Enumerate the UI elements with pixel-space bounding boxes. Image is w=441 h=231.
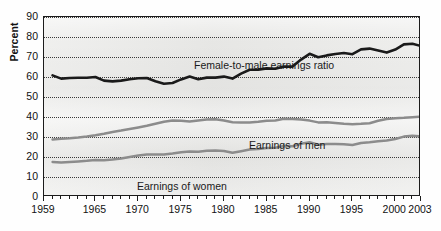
x-tick-1973 bbox=[163, 196, 164, 199]
y-tick-label-80: 80 bbox=[16, 31, 38, 41]
x-tick-label-1995: 1995 bbox=[329, 203, 373, 215]
x-axis: 1959196519701975198019851990199520002003 bbox=[43, 196, 420, 231]
annotation-earnings-of-women: Earnings of women bbox=[137, 180, 227, 192]
x-tick-1996 bbox=[360, 196, 361, 199]
x-tick-1997 bbox=[369, 196, 370, 199]
y-tick-label-60: 60 bbox=[16, 71, 38, 81]
x-tick-1960 bbox=[52, 196, 53, 199]
x-tick-1961 bbox=[60, 196, 61, 199]
line-earnings-of-women bbox=[53, 136, 420, 163]
x-tick-label-1965: 1965 bbox=[72, 203, 116, 215]
x-tick-1989 bbox=[300, 196, 301, 199]
x-tick-1991 bbox=[317, 196, 318, 199]
x-tick-label-2003: 2003 bbox=[398, 203, 441, 215]
x-tick-label-1959: 1959 bbox=[21, 203, 65, 215]
x-tick-1972 bbox=[154, 196, 155, 199]
x-tick-1988 bbox=[291, 196, 292, 199]
x-tick-1995 bbox=[351, 196, 352, 201]
x-tick-1963 bbox=[77, 196, 78, 199]
x-tick-1969 bbox=[129, 196, 130, 199]
x-tick-1980 bbox=[223, 196, 224, 201]
x-tick-2000 bbox=[394, 196, 395, 201]
x-tick-1993 bbox=[334, 196, 335, 199]
y-tick-label-10: 10 bbox=[16, 171, 38, 181]
x-tick-1985 bbox=[266, 196, 267, 201]
x-tick-1970 bbox=[137, 196, 138, 201]
y-tick-label-70: 70 bbox=[16, 51, 38, 61]
x-tick-1976 bbox=[189, 196, 190, 199]
x-tick-1971 bbox=[146, 196, 147, 199]
y-tick-label-30: 30 bbox=[16, 131, 38, 141]
annotation-female-to-male-ratio: Female-to-male earnings ratio bbox=[194, 59, 334, 71]
x-tick-1959 bbox=[43, 196, 44, 201]
x-tick-1978 bbox=[206, 196, 207, 199]
x-tick-2001 bbox=[403, 196, 404, 199]
x-tick-1981 bbox=[232, 196, 233, 199]
x-tick-1998 bbox=[377, 196, 378, 199]
y-tick-label-20: 20 bbox=[16, 151, 38, 161]
x-tick-2002 bbox=[411, 196, 412, 199]
y-tick-label-90: 90 bbox=[16, 11, 38, 21]
x-tick-1977 bbox=[197, 196, 198, 199]
x-tick-1990 bbox=[309, 196, 310, 201]
x-tick-1965 bbox=[94, 196, 95, 201]
x-tick-1984 bbox=[257, 196, 258, 199]
plot-area: Female-to-male earnings ratio Earnings o… bbox=[43, 16, 420, 196]
x-tick-1982 bbox=[240, 196, 241, 199]
earnings-ratio-chart: Percent 0102030405060708090 Female-to-ma… bbox=[0, 0, 441, 231]
x-tick-1966 bbox=[103, 196, 104, 199]
x-tick-1975 bbox=[180, 196, 181, 201]
x-tick-label-1980: 1980 bbox=[201, 203, 245, 215]
series-lines bbox=[44, 17, 420, 196]
x-tick-1992 bbox=[326, 196, 327, 199]
y-tick-label-50: 50 bbox=[16, 91, 38, 101]
x-tick-1974 bbox=[172, 196, 173, 199]
x-tick-1968 bbox=[120, 196, 121, 199]
x-tick-1994 bbox=[343, 196, 344, 199]
x-tick-1962 bbox=[69, 196, 70, 199]
y-tick-label-0: 0 bbox=[16, 191, 38, 201]
x-tick-2003 bbox=[420, 196, 421, 201]
x-tick-1999 bbox=[386, 196, 387, 199]
x-tick-1983 bbox=[249, 196, 250, 199]
y-tick-label-40: 40 bbox=[16, 111, 38, 121]
line-earnings-of-men bbox=[53, 117, 420, 140]
x-tick-1979 bbox=[214, 196, 215, 199]
x-tick-1964 bbox=[86, 196, 87, 199]
x-tick-label-1985: 1985 bbox=[244, 203, 288, 215]
x-tick-label-1970: 1970 bbox=[115, 203, 159, 215]
annotation-earnings-of-men: Earnings of men bbox=[249, 139, 325, 151]
x-tick-label-1990: 1990 bbox=[287, 203, 331, 215]
x-tick-1986 bbox=[274, 196, 275, 199]
x-tick-label-1975: 1975 bbox=[158, 203, 202, 215]
x-tick-1967 bbox=[112, 196, 113, 199]
x-tick-1987 bbox=[283, 196, 284, 199]
